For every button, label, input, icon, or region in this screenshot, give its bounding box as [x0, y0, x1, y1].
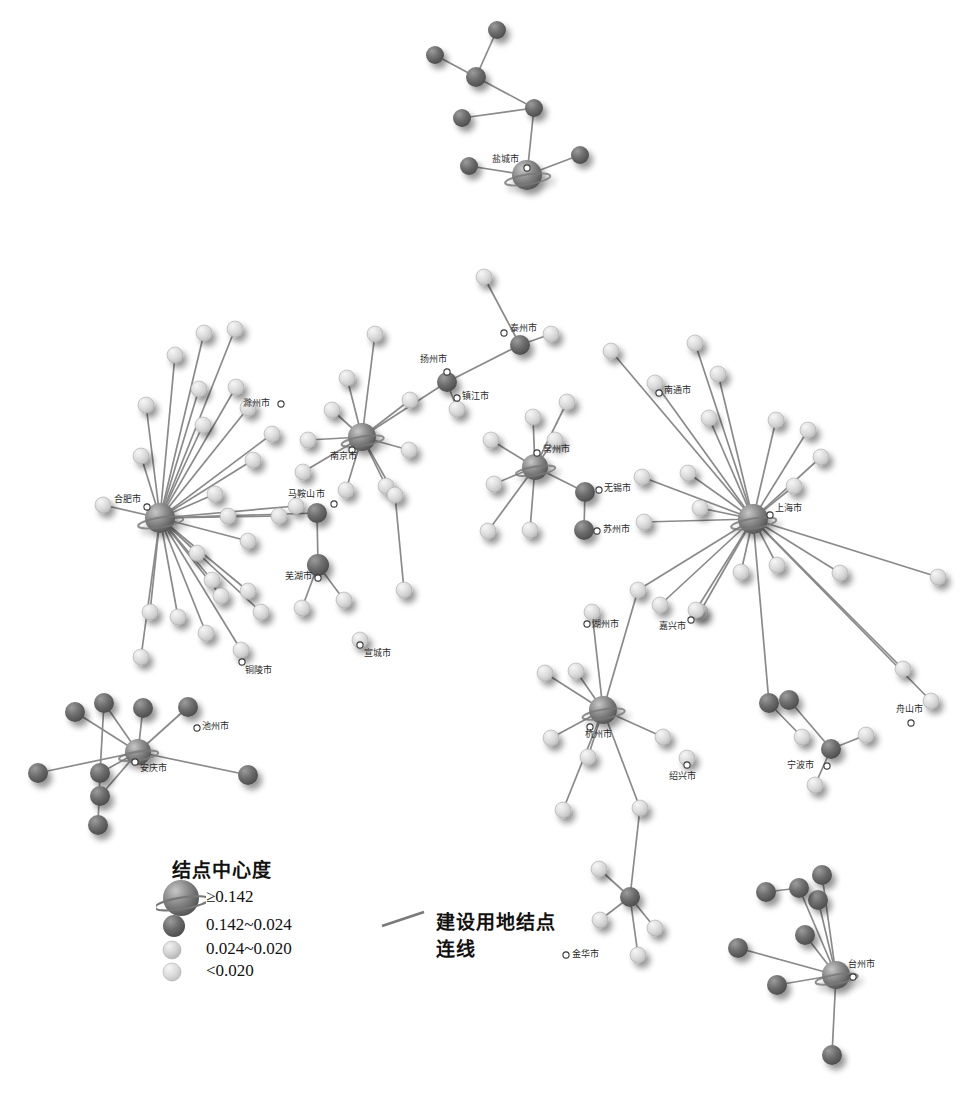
- network-node[interactable]: [198, 625, 214, 641]
- network-node[interactable]: [476, 269, 492, 285]
- network-node[interactable]: [142, 604, 158, 620]
- network-node[interactable]: [701, 410, 717, 426]
- network-node[interactable]: [858, 727, 874, 743]
- network-node[interactable]: [603, 343, 619, 359]
- network-node[interactable]: [220, 508, 236, 524]
- network-node[interactable]: [574, 520, 594, 540]
- network-node[interactable]: [813, 449, 829, 465]
- network-node[interactable]: [189, 545, 205, 561]
- network-node[interactable]: [769, 557, 785, 573]
- network-node[interactable]: [630, 947, 646, 963]
- network-node[interactable]: [483, 432, 499, 448]
- network-node[interactable]: [634, 469, 650, 485]
- network-node[interactable]: [767, 975, 787, 995]
- network-node[interactable]: [543, 326, 559, 342]
- network-node[interactable]: [789, 878, 809, 898]
- network-node[interactable]: [728, 938, 748, 958]
- network-node[interactable]: [488, 21, 506, 39]
- network-node[interactable]: [647, 920, 663, 936]
- network-node[interactable]: [253, 604, 269, 620]
- network-node[interactable]: [95, 497, 111, 513]
- network-node[interactable]: [367, 326, 383, 342]
- network-node[interactable]: [324, 402, 340, 418]
- network-node[interactable]: [733, 564, 749, 580]
- network-node[interactable]: [647, 375, 663, 391]
- network-node[interactable]: [271, 508, 287, 524]
- network-node[interactable]: [240, 583, 256, 599]
- network-node[interactable]: [402, 392, 418, 408]
- network-node[interactable]: [288, 498, 304, 514]
- network-node[interactable]: [571, 146, 589, 164]
- network-node[interactable]: [559, 394, 575, 410]
- network-node[interactable]: [812, 865, 832, 885]
- network-node[interactable]: [525, 99, 543, 117]
- network-node[interactable]: [339, 370, 355, 386]
- network-node[interactable]: [133, 698, 153, 718]
- network-node[interactable]: [28, 763, 48, 783]
- network-node[interactable]: [94, 693, 114, 713]
- network-node[interactable]: [196, 325, 212, 341]
- network-node[interactable]: [808, 890, 828, 910]
- network-node[interactable]: [295, 464, 311, 480]
- network-node[interactable]: [575, 482, 595, 502]
- network-node[interactable]: [65, 702, 85, 722]
- network-node[interactable]: [133, 448, 149, 464]
- network-node[interactable]: [88, 815, 108, 835]
- network-node[interactable]: [396, 582, 412, 598]
- network-node[interactable]: [525, 409, 541, 425]
- network-node[interactable]: [537, 665, 553, 681]
- network-node[interactable]: [213, 588, 229, 604]
- network-node[interactable]: [591, 861, 607, 877]
- network-node[interactable]: [401, 442, 417, 458]
- network-node[interactable]: [768, 412, 784, 428]
- network-node[interactable]: [453, 109, 471, 127]
- network-node[interactable]: [930, 569, 946, 585]
- network-node[interactable]: [759, 693, 779, 713]
- network-node[interactable]: [466, 67, 486, 87]
- network-node[interactable]: [555, 802, 571, 818]
- network-node[interactable]: [191, 381, 207, 397]
- network-node[interactable]: [923, 693, 939, 709]
- network-node[interactable]: [822, 1045, 842, 1065]
- network-node[interactable]: [688, 602, 704, 618]
- network-node[interactable]: [794, 729, 810, 745]
- network-node[interactable]: [204, 572, 220, 588]
- network-node[interactable]: [630, 582, 646, 598]
- network-node[interactable]: [480, 523, 496, 539]
- network-node[interactable]: [300, 432, 316, 448]
- network-node[interactable]: [795, 925, 815, 945]
- network-node[interactable]: [264, 426, 280, 442]
- network-node[interactable]: [786, 478, 802, 494]
- network-node[interactable]: [655, 729, 671, 745]
- network-node[interactable]: [832, 565, 848, 581]
- network-node[interactable]: [195, 417, 211, 433]
- network-node[interactable]: [178, 697, 198, 717]
- network-node[interactable]: [756, 882, 776, 902]
- network-node[interactable]: [90, 763, 110, 783]
- network-node[interactable]: [170, 609, 186, 625]
- network-node[interactable]: [90, 786, 110, 806]
- network-node[interactable]: [568, 663, 584, 679]
- network-node[interactable]: [779, 690, 799, 710]
- network-node[interactable]: [228, 379, 244, 395]
- network-node[interactable]: [227, 321, 243, 337]
- network-node[interactable]: [245, 452, 261, 468]
- network-node[interactable]: [486, 476, 502, 492]
- network-node[interactable]: [233, 642, 249, 658]
- network-node[interactable]: [821, 739, 841, 759]
- network-node[interactable]: [460, 157, 478, 175]
- network-node[interactable]: [687, 335, 703, 351]
- network-node[interactable]: [800, 422, 816, 438]
- network-node[interactable]: [692, 500, 708, 516]
- network-node[interactable]: [426, 46, 444, 64]
- network-node[interactable]: [138, 397, 154, 413]
- network-node[interactable]: [543, 730, 559, 746]
- network-node[interactable]: [294, 600, 310, 616]
- network-node[interactable]: [336, 592, 352, 608]
- network-node[interactable]: [620, 887, 640, 907]
- network-node[interactable]: [807, 777, 823, 793]
- network-node[interactable]: [133, 649, 149, 665]
- network-node[interactable]: [338, 482, 354, 498]
- network-node[interactable]: [710, 366, 726, 382]
- network-node[interactable]: [167, 347, 183, 363]
